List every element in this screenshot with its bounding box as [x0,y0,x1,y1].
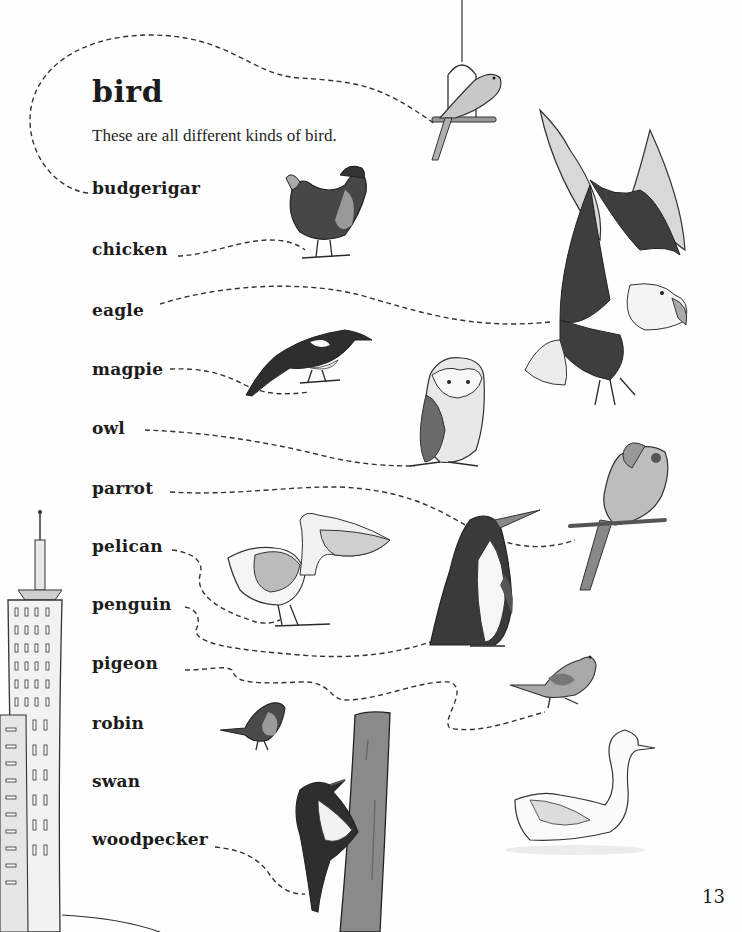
swan-illustration [505,730,655,855]
dictionary-page: bird These are all different kinds of bi… [0,0,742,932]
chicken-illustration [286,166,366,258]
penguin-illustration [430,510,540,646]
owl-illustration [410,358,484,466]
word-swan: swan [92,771,140,791]
word-woodpecker: woodpecker [92,829,208,849]
word-penguin: penguin [92,594,172,614]
word-eagle: eagle [92,300,144,320]
connector-budgerigar [30,35,435,193]
word-robin: robin [92,713,144,733]
word-owl: owl [92,418,125,438]
word-pelican: pelican [92,536,163,556]
pigeon-illustration [510,656,596,709]
word-budgerigar: budgerigar [92,178,200,198]
word-magpie: magpie [92,359,163,379]
page-subtitle: These are all different kinds of bird. [92,126,337,146]
budgerigar-illustration [432,0,501,160]
word-parrot: parrot [92,478,153,498]
page-title: bird [92,74,163,109]
pelican-illustration [228,513,390,626]
robin-illustration [220,703,285,750]
eagle-illustration [525,110,687,405]
word-chicken: chicken [92,239,168,259]
page-number: 13 [702,886,725,907]
magpie-illustration [246,330,372,396]
parrot-illustration [570,443,668,590]
connector-eagle [160,286,550,324]
word-pigeon: pigeon [92,653,158,673]
dashed-connector-lines [30,35,575,894]
